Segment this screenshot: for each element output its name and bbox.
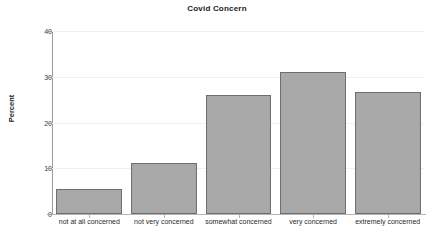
chart-title: Covid Concern [0,4,434,13]
bar [56,189,122,214]
x-tick-label: somewhat concerned [201,217,276,227]
x-tick-mark [89,214,90,218]
x-tick-label: extremely concerned [350,217,425,227]
x-tick-mark [164,214,165,218]
x-tick-mark [388,214,389,218]
plot-area [52,31,425,214]
x-tick-label: not very concerned [127,217,202,227]
bars-group [52,31,425,214]
x-tick-label: very concerned [276,217,351,227]
x-tick-mark [313,214,314,218]
x-tick-label: not at all concerned [52,217,127,227]
x-axis-labels: not at all concernednot very concernedso… [52,217,426,246]
bar [355,92,421,214]
bar [131,163,197,214]
bar-chart: Covid Concern Percent 010203040 not at a… [0,0,434,246]
bar [280,72,346,214]
bar [206,95,272,214]
y-axis-ticks: 010203040 [0,0,52,246]
x-tick-mark [239,214,240,218]
